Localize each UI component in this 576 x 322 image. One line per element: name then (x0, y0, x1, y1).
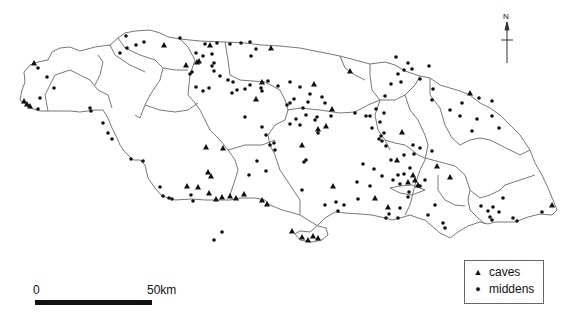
cave-marker (399, 129, 405, 135)
midden-marker (210, 52, 214, 56)
midden-marker (52, 86, 56, 90)
midden-marker (515, 219, 519, 223)
midden-marker (491, 205, 495, 209)
midden-marker (235, 88, 239, 92)
midden-marker (276, 84, 280, 88)
midden-marker (490, 218, 494, 222)
midden-marker (382, 111, 386, 115)
midden-marker (402, 153, 406, 157)
midden-marker (288, 80, 292, 84)
midden-marker (398, 206, 402, 210)
midden-marker (141, 159, 145, 163)
midden-marker (230, 91, 234, 95)
midden-marker (272, 141, 276, 145)
midden-marker (313, 118, 317, 122)
midden-marker (368, 114, 372, 118)
midden-marker (101, 121, 105, 125)
midden-marker (298, 123, 302, 127)
midden-marker (497, 126, 501, 130)
midden-marker (486, 209, 490, 213)
midden-marker (188, 72, 192, 76)
legend: ▲ caves ● middens (464, 260, 544, 304)
midden-marker (329, 114, 333, 118)
midden-marker (364, 114, 368, 118)
cave-marker (329, 106, 335, 112)
midden-marker (201, 89, 205, 93)
midden-marker (368, 184, 372, 188)
midden-marker (292, 97, 296, 101)
midden-marker (540, 210, 544, 214)
midden-marker (134, 43, 138, 47)
midden-marker (285, 103, 289, 107)
midden-marker (220, 230, 224, 234)
midden-marker (479, 204, 483, 208)
cave-marker (213, 196, 219, 202)
dot-icon: ● (473, 283, 483, 295)
midden-marker (342, 203, 346, 207)
cave-marker (323, 123, 329, 129)
cave-marker (253, 96, 259, 102)
midden-marker (38, 96, 42, 100)
midden-marker (239, 41, 243, 45)
cave-marker (203, 144, 209, 150)
midden-marker (396, 72, 400, 76)
midden-marker (402, 68, 406, 72)
midden-marker (426, 213, 430, 217)
cave-marker (330, 183, 336, 189)
midden-marker (254, 47, 258, 51)
midden-marker (142, 40, 146, 44)
midden-marker (268, 143, 272, 147)
midden-marker (304, 113, 308, 117)
midden-marker (194, 51, 198, 55)
midden-marker (389, 82, 393, 86)
midden-marker (377, 137, 381, 141)
cave-marker (207, 42, 213, 48)
midden-marker (372, 167, 376, 171)
midden-marker (418, 146, 422, 150)
midden-marker (294, 117, 298, 121)
midden-marker (490, 114, 494, 118)
midden-marker (448, 108, 452, 112)
midden-marker (36, 66, 40, 70)
midden-marker (433, 203, 437, 207)
midden-marker (308, 92, 312, 96)
midden-marker (189, 193, 193, 197)
island-outline (20, 30, 557, 242)
midden-marker (334, 200, 338, 204)
midden-marker (301, 106, 305, 110)
midden-marker (266, 79, 270, 83)
midden-marker (207, 86, 211, 90)
cave-marker (434, 163, 440, 169)
midden-marker (210, 64, 214, 68)
midden-marker (215, 41, 219, 45)
midden-marker (430, 98, 434, 102)
legend-item-caves: ▲ caves (473, 265, 520, 279)
cave-marker (206, 190, 212, 196)
midden-marker (125, 46, 129, 50)
midden-marker (264, 133, 268, 137)
midden-marker (460, 101, 464, 105)
midden-marker (382, 131, 386, 135)
midden-marker (315, 115, 319, 119)
cave-marker (315, 235, 321, 241)
midden-marker (411, 143, 415, 147)
midden-marker (391, 178, 395, 182)
cave-marker (299, 234, 305, 240)
cave-marker (299, 142, 305, 148)
legend-label-caves: caves (489, 265, 520, 279)
midden-marker (129, 157, 133, 161)
midden-marker (407, 190, 411, 194)
midden-marker (380, 139, 384, 143)
midden-marker (288, 101, 292, 105)
midden-marker (383, 94, 387, 98)
midden-marker (384, 216, 388, 220)
midden-marker (288, 122, 292, 126)
legend-label-middens: middens (489, 282, 534, 296)
cave-marker (311, 81, 317, 87)
midden-marker (396, 173, 400, 177)
midden-marker (302, 160, 306, 164)
midden-marker (212, 69, 216, 73)
midden-marker (191, 199, 195, 203)
midden-marker (431, 87, 435, 91)
midden-marker (410, 67, 414, 71)
